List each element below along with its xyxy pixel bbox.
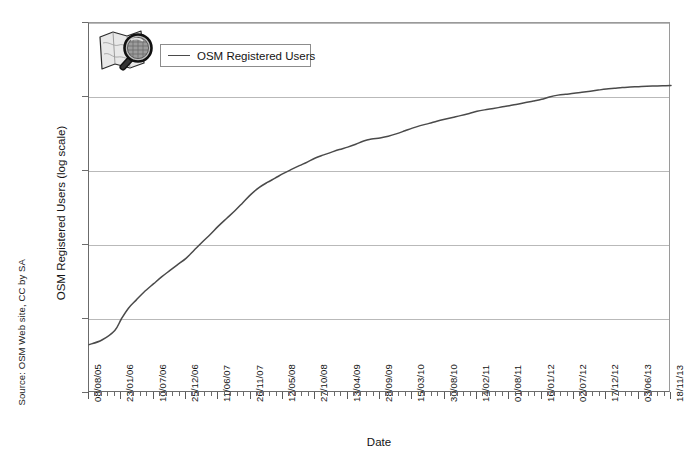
x-tick-mark-minor xyxy=(586,392,587,396)
x-tick-label: 11/06/07 xyxy=(221,365,232,402)
x-tick-mark-minor xyxy=(256,392,257,396)
x-tick-mark-minor xyxy=(657,392,658,396)
x-tick-mark-minor xyxy=(159,392,160,396)
map-magnifier-icon xyxy=(97,27,157,77)
x-tick-mark-minor xyxy=(424,392,425,396)
x-tick-mark-minor xyxy=(179,392,180,396)
x-tick-mark-major xyxy=(120,392,121,399)
x-tick-mark-major xyxy=(314,392,315,399)
x-tick-label: 08/08/05 xyxy=(92,364,103,402)
x-tick-mark-minor xyxy=(392,392,393,396)
x-tick-mark-minor xyxy=(592,392,593,396)
x-tick-mark-minor xyxy=(243,392,244,396)
x-tick-label: 25/12/06 xyxy=(189,364,200,402)
x-tick-mark-minor xyxy=(204,392,205,396)
gridline xyxy=(89,245,669,246)
x-tick-mark-minor xyxy=(146,392,147,396)
y-axis-title: OSM Registered Users (log scale) xyxy=(55,83,67,343)
x-tick-label: 18/11/13 xyxy=(674,365,685,402)
x-tick-mark-major xyxy=(476,392,477,399)
x-tick-mark-minor xyxy=(172,392,173,396)
x-tick-mark-major xyxy=(605,392,606,399)
x-tick-mark-minor xyxy=(340,392,341,396)
x-tick-mark-minor xyxy=(534,392,535,396)
x-tick-mark-minor xyxy=(625,392,626,396)
x-tick-label: 26/11/07 xyxy=(254,365,265,402)
source-note: Source: OSM Web site, CC by SA xyxy=(16,266,27,406)
x-tick-mark-major xyxy=(379,392,380,399)
x-tick-mark-major xyxy=(282,392,283,399)
x-tick-mark-minor xyxy=(230,392,231,396)
x-tick-label: 28/09/09 xyxy=(383,364,394,402)
x-tick-mark-minor xyxy=(353,392,354,396)
x-tick-mark-minor xyxy=(470,392,471,396)
x-tick-mark-minor xyxy=(263,392,264,396)
x-tick-label: 02/07/12 xyxy=(577,364,588,402)
x-tick-mark-minor xyxy=(560,392,561,396)
x-tick-mark-minor xyxy=(133,392,134,396)
x-tick-label: 10/07/06 xyxy=(157,364,168,402)
x-tick-mark-minor xyxy=(237,392,238,396)
gridline xyxy=(89,23,669,24)
x-tick-mark-minor xyxy=(463,392,464,396)
x-tick-label: 03/06/13 xyxy=(642,364,653,402)
x-tick-mark-minor xyxy=(211,392,212,396)
x-tick-mark-major xyxy=(217,392,218,399)
gridline xyxy=(89,171,669,172)
x-tick-mark-minor xyxy=(191,392,192,396)
x-tick-mark-minor xyxy=(321,392,322,396)
x-tick-label: 27/10/08 xyxy=(318,364,329,402)
x-tick-mark-minor xyxy=(94,392,95,396)
x-tick-mark-minor xyxy=(114,392,115,396)
x-tick-mark-minor xyxy=(398,392,399,396)
x-tick-mark-major xyxy=(411,392,412,399)
x-tick-mark-minor xyxy=(295,392,296,396)
x-tick-mark-minor xyxy=(664,392,665,396)
x-tick-mark-minor xyxy=(140,392,141,396)
x-tick-mark-minor xyxy=(366,392,367,396)
x-tick-mark-minor xyxy=(269,392,270,396)
x-tick-mark-minor xyxy=(644,392,645,396)
x-axis-title: Date xyxy=(0,436,692,448)
x-tick-mark-minor xyxy=(431,392,432,396)
x-tick-mark-minor xyxy=(554,392,555,396)
x-tick-mark-minor xyxy=(276,392,277,396)
x-tick-mark-minor xyxy=(515,392,516,396)
legend-label: OSM Registered Users xyxy=(197,50,315,62)
series-line-osm-registered-users xyxy=(89,23,671,393)
x-tick-label: 30/08/10 xyxy=(448,364,459,402)
x-tick-label: 15/03/10 xyxy=(415,364,426,402)
x-tick-mark-major xyxy=(250,392,251,399)
x-tick-mark-minor xyxy=(107,392,108,396)
x-tick-label: 23/01/06 xyxy=(124,364,135,402)
x-tick-mark-minor xyxy=(327,392,328,396)
x-tick-mark-major xyxy=(347,392,348,399)
legend-line-swatch xyxy=(168,55,190,57)
x-tick-mark-minor xyxy=(547,392,548,396)
x-tick-mark-major xyxy=(185,392,186,399)
osm-registered-users-chart-figure: Source: OSM Web site, CC by SA OSM Regis… xyxy=(0,0,692,459)
x-tick-mark-minor xyxy=(288,392,289,396)
x-tick-mark-major xyxy=(88,392,89,399)
x-tick-label: 16/01/12 xyxy=(545,364,556,402)
x-tick-mark-minor xyxy=(618,392,619,396)
x-tick-mark-minor xyxy=(651,392,652,396)
x-tick-mark-minor xyxy=(437,392,438,396)
x-tick-mark-minor xyxy=(360,392,361,396)
x-tick-mark-minor xyxy=(528,392,529,396)
x-tick-mark-major xyxy=(638,392,639,399)
x-tick-mark-minor xyxy=(166,392,167,396)
x-tick-label: 01/08/11 xyxy=(512,365,523,402)
chart-legend: OSM Registered Users xyxy=(160,44,311,67)
x-tick-mark-minor xyxy=(308,392,309,396)
x-tick-mark-minor xyxy=(224,392,225,396)
x-tick-mark-minor xyxy=(385,392,386,396)
x-tick-mark-minor xyxy=(450,392,451,396)
x-tick-mark-major xyxy=(508,392,509,399)
x-tick-mark-minor xyxy=(567,392,568,396)
x-tick-mark-minor xyxy=(405,392,406,396)
x-tick-mark-minor xyxy=(198,392,199,396)
x-tick-mark-major xyxy=(153,392,154,399)
x-tick-mark-minor xyxy=(489,392,490,396)
x-tick-mark-minor xyxy=(495,392,496,396)
